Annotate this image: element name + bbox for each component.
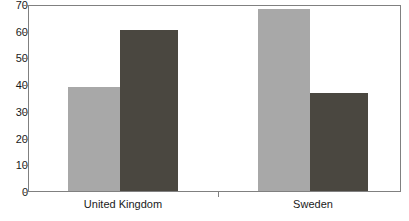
y-tick-mark-0 xyxy=(23,192,28,193)
category-separator-tick xyxy=(218,192,219,197)
x-axis-label-sweden: Sweden xyxy=(293,198,333,210)
bar-chart-screenshot: 70 60 50 40 30 20 10 0 United Kingdom Sw… xyxy=(0,0,409,221)
bar-united-kingdom-series-1 xyxy=(68,87,120,191)
bar-sweden-series-1 xyxy=(258,9,310,191)
x-axis-label-united-kingdom: United Kingdom xyxy=(84,198,162,210)
bar-sweden-series-2 xyxy=(310,93,368,191)
plot-area xyxy=(28,5,401,192)
y-axis: 70 60 50 40 30 20 10 0 xyxy=(0,0,28,221)
bar-united-kingdom-series-2 xyxy=(120,30,178,191)
